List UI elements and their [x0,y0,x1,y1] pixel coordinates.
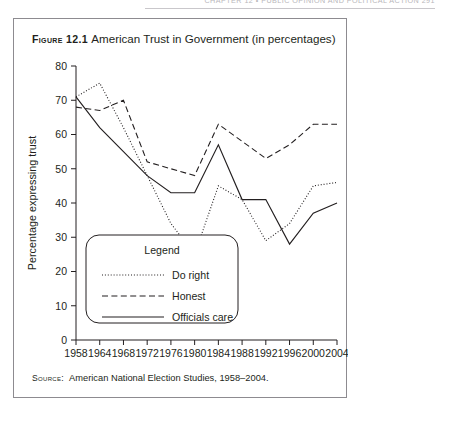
running-header-text: CHAPTER 12 • PUBLIC OPINION AND POLITICA… [204,0,435,5]
x-tick-label: 1958 [64,347,88,359]
y-tick-label: 10 [55,300,67,312]
x-tick-label: 1976 [159,347,183,359]
x-tick-label: 1992 [254,347,278,359]
x-tick-label: 1972 [136,347,160,359]
figure-number-label: Figure 12.1 [32,33,88,45]
y-tick-label: 20 [55,265,67,277]
legend-title-text: Legend [144,244,179,256]
y-tick-label: 80 [55,60,67,72]
x-tick-label: 1996 [278,347,302,359]
x-tick-label: 1988 [230,347,254,359]
x-tick-label: 1968 [112,347,136,359]
x-tick-label: 1964 [88,347,112,359]
source-note: Source: American National Election Studi… [32,373,269,383]
source-note-label: Source: [32,373,64,383]
y-tick-label: 70 [55,94,67,106]
x-tick-label: 1980 [183,347,207,359]
running-header: CHAPTER 12 • PUBLIC OPINION AND POLITICA… [0,0,449,9]
legend-label-officials_care: Officials care [172,311,233,323]
legend-label-do_right: Do right [172,269,209,281]
running-header-rule [145,8,435,9]
x-tick-label: 1984 [207,347,231,359]
series-line-honest [76,100,337,175]
y-tick-label: 40 [55,197,67,209]
source-note-text: American National Election Studies, 1958… [69,373,269,383]
figure-title: Figure 12.1 American Trust in Government… [32,32,332,45]
chart-series-group [76,83,337,254]
chart-plot-area: 01020304050607080 1958196419681972197619… [14,49,348,367]
y-tick-label: 60 [55,128,67,140]
legend-label-honest: Honest [172,290,206,302]
y-tick-label: 50 [55,163,67,175]
y-axis-title: Percentage expressing trust [26,136,38,270]
y-axis-tick-labels: 01020304050607080 [55,60,67,346]
y-axis-title-text: Percentage expressing trust [26,136,38,270]
figure-box: Figure 12.1 American Trust in Government… [13,18,347,398]
y-tick-label: 0 [61,334,67,346]
x-tick-label: 2000 [302,347,326,359]
x-axis-tick-labels: 1958196419681972197619801984198819921996… [64,347,348,359]
series-line-officials_care [76,97,337,244]
figure-caption-text: American Trust in Government (in percent… [91,32,335,45]
chart-legend: LegendDo rightHonestOfficials care [86,235,238,323]
x-tick-label: 2004 [325,347,348,359]
trust-in-government-line-chart: 01020304050607080 1958196419681972197619… [14,49,348,367]
y-tick-label: 30 [55,231,67,243]
